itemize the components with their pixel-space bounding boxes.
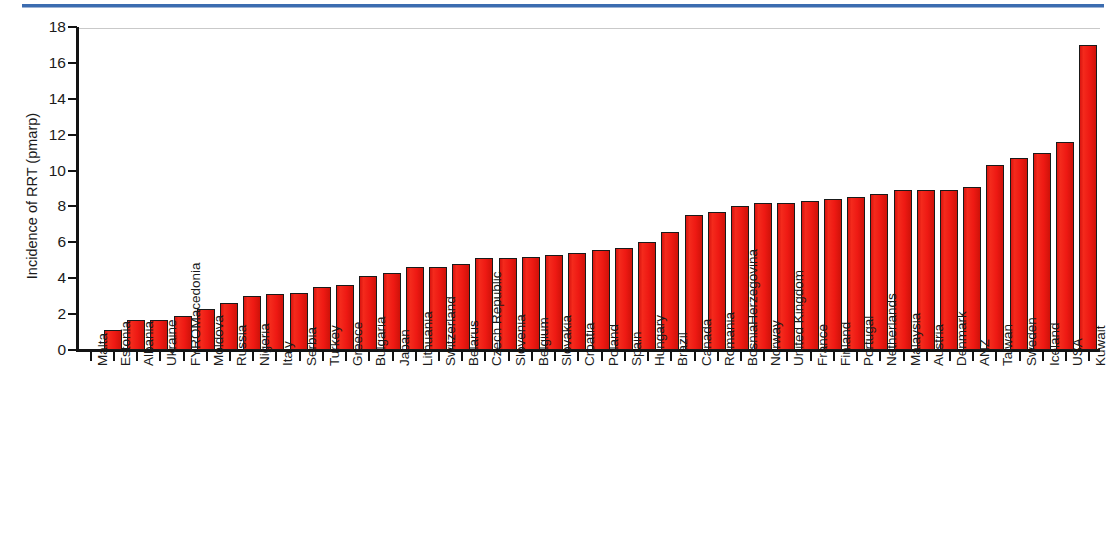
x-axis-tick [949, 352, 951, 361]
y-axis-tick [68, 241, 77, 243]
x-axis-tick [1065, 352, 1067, 361]
x-axis-tick-label: Malta [96, 333, 110, 366]
x-axis-tick [275, 352, 277, 361]
bar [1079, 45, 1097, 350]
x-axis-tick-label: Switzerland [444, 296, 458, 366]
x-axis-tick [113, 352, 115, 361]
x-axis-tick-label: Sweden [1025, 317, 1039, 366]
x-axis-tick-label: Serbia [305, 327, 319, 366]
x-axis-tick [1042, 352, 1044, 361]
x-axis-tick-label: Russia [235, 325, 249, 366]
x-axis-tick-label: BosniaHerzegovina [746, 249, 760, 366]
x-axis-tick-label: Greece [351, 322, 365, 366]
y-axis-title: Incidence of RRT (pmarp) [24, 46, 40, 346]
x-axis-tick [833, 352, 835, 361]
x-axis-tick-label: Denmark [955, 311, 969, 366]
x-axis-tick [554, 352, 556, 361]
x-axis-tick-label: Finland [839, 322, 853, 366]
y-axis-tick [68, 62, 77, 64]
x-axis-tick [159, 352, 161, 361]
y-axis-tick [68, 98, 77, 100]
x-axis-tick [624, 352, 626, 361]
y-axis-tick [68, 313, 77, 315]
x-axis-tick [484, 352, 486, 361]
x-axis-tick [903, 352, 905, 361]
x-axis-tick [647, 352, 649, 361]
y-axis-tick [68, 134, 77, 136]
x-axis-tick [206, 352, 208, 361]
x-axis-tick-label: Brazil [676, 332, 690, 366]
x-axis-tick-label: Taiwan [1001, 324, 1015, 366]
x-axis-tick-label: Czech Republic [490, 271, 504, 366]
x-axis-tick [856, 352, 858, 361]
x-axis-tick [136, 352, 138, 361]
x-axis-tick-label: Romania [723, 312, 737, 366]
x-axis-tick [392, 352, 394, 361]
x-axis-tick-label: Italy [281, 341, 295, 366]
x-axis-tick-label: Nigeria [258, 323, 272, 366]
x-axis-tick-label: Slovakia [560, 315, 574, 366]
x-axis-tick [740, 352, 742, 361]
x-axis-tick [508, 352, 510, 361]
x-axis-tick [763, 352, 765, 361]
plot-area [78, 27, 1100, 350]
x-axis-tick-label: Japan [398, 329, 412, 366]
x-axis-tick [229, 352, 231, 361]
x-axis-tick [461, 352, 463, 361]
x-axis-tick [786, 352, 788, 361]
x-axis-tick [577, 352, 579, 361]
y-axis-tick [68, 26, 77, 28]
x-axis-tick [1088, 352, 1090, 361]
x-axis-tick-label: Kuwait [1094, 325, 1108, 366]
x-axis-tick-label: Croatia [583, 322, 597, 366]
x-axis-tick-label: Poland [607, 324, 621, 366]
x-axis-tick [926, 352, 928, 361]
x-axis-tick-label: Iceland [1048, 322, 1062, 366]
x-axis-tick [415, 352, 417, 361]
y-axis-tick [68, 277, 77, 279]
x-axis-tick [670, 352, 672, 361]
x-axis-tick-label: Norway [769, 320, 783, 366]
x-axis-tick [1019, 352, 1021, 361]
x-axis-tick-label: Netherlands [885, 293, 899, 366]
x-axis-tick-label: Ukraine [165, 319, 179, 366]
x-axis-tick-label: France [816, 324, 830, 366]
x-axis-tick-label: United Kingdom [792, 270, 806, 366]
x-axis-tick [717, 352, 719, 361]
x-axis-tick [368, 352, 370, 361]
x-axis-tick [879, 352, 881, 361]
x-axis-tick [972, 352, 974, 361]
y-axis-tick [68, 170, 77, 172]
x-axis-tick [322, 352, 324, 361]
x-axis-tick-label: Bulgaria [374, 316, 388, 366]
bar [1056, 142, 1074, 350]
x-axis-tick-label: Spain [630, 331, 644, 366]
x-axis-tick-label: Albania [142, 321, 156, 366]
x-axis-tick-label: Canada [700, 319, 714, 366]
x-axis-tick [601, 352, 603, 361]
chart-figure: 024681012141618 Incidence of RRT (pmarp)… [0, 0, 1108, 539]
x-axis-tick [995, 352, 997, 361]
x-axis-tick-label: USA [1071, 338, 1085, 366]
x-axis-tick-label: ANZ [978, 339, 992, 366]
x-axis-tick [531, 352, 533, 361]
x-axis-tick [694, 352, 696, 361]
x-axis-tick [810, 352, 812, 361]
header-rule-shadow [22, 7, 1104, 8]
x-axis-tick-label: Lithuania [421, 311, 435, 366]
x-axis-tick-label: Belgium [537, 317, 551, 366]
x-axis-tick-label: Moldova [212, 315, 226, 366]
x-axis-tick [345, 352, 347, 361]
x-axis-tick [438, 352, 440, 361]
x-axis-tick [183, 352, 185, 361]
x-axis-tick-label: Belarus [467, 320, 481, 366]
y-axis-tick-label: 18 [32, 19, 66, 35]
x-axis-tick-label: Slovenia [514, 314, 528, 366]
x-axis-tick [299, 352, 301, 361]
y-axis-tick [68, 205, 77, 207]
bar [986, 165, 1004, 350]
x-axis-tick [90, 352, 92, 361]
x-axis-tick-label: Hungary [653, 315, 667, 366]
x-axis-tick [252, 352, 254, 361]
y-axis-tick [68, 349, 77, 351]
